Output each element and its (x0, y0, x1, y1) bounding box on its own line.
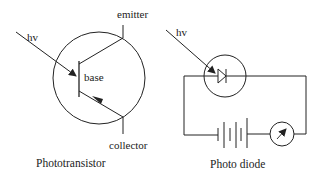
battery-icon (218, 118, 247, 148)
photodiode-circuit (166, 30, 306, 148)
photodiode-light-label: hv (176, 27, 187, 38)
emitter-label: emitter (117, 9, 148, 20)
diode-light-ray-arrow (166, 30, 215, 73)
photodiode-caption: Photo diode (210, 159, 265, 171)
light-ray-arrow (16, 32, 76, 76)
diode-triangle-icon (218, 69, 226, 83)
base-label: base (84, 72, 104, 83)
wire-right (226, 76, 306, 134)
phototransistor-caption: Phototransistor (36, 158, 106, 170)
collector-label: collector (109, 140, 147, 151)
meter-needle (277, 129, 286, 139)
phototransistor-light-label: hv (27, 32, 38, 43)
emitter-lead-diagonal (79, 38, 123, 64)
diagram-canvas (0, 0, 324, 178)
wire-left (184, 76, 218, 135)
